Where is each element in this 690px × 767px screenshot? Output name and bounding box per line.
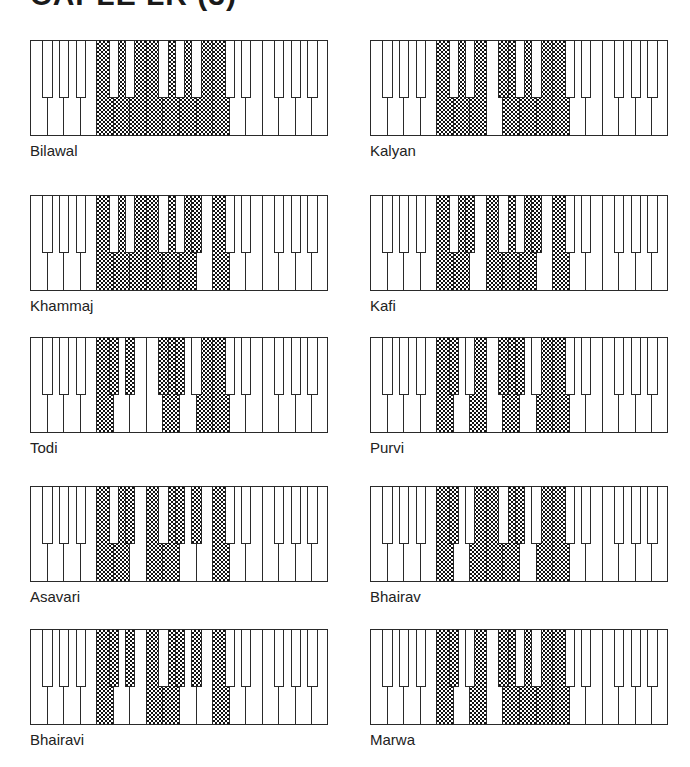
black-key-d-sharp (125, 487, 135, 544)
black-key-g-sharp (515, 338, 525, 395)
black-key-f-sharp (382, 41, 392, 98)
black-key-g-sharp (59, 487, 69, 544)
black-key-a-sharp (531, 196, 541, 253)
black-key-c-sharp (109, 41, 119, 98)
black-key-d-sharp (581, 487, 591, 544)
thaat-label: Purvi (370, 439, 670, 456)
black-key-d-sharp (125, 338, 135, 395)
black-key-d-sharp (465, 41, 475, 98)
black-key-f-sharp (498, 487, 508, 544)
black-key-c-sharp (565, 196, 575, 253)
black-key-f-sharp (382, 196, 392, 253)
black-key-c-sharp (565, 41, 575, 98)
black-key-f-sharp (382, 338, 392, 395)
black-key-f-sharp (42, 630, 52, 687)
black-key-d-sharp (241, 487, 251, 544)
black-key-a-sharp (191, 630, 201, 687)
thaat-label: Marwa (370, 731, 670, 748)
piano-keyboard (370, 40, 668, 136)
thaat-panel-purvi: Purvi (370, 337, 670, 456)
black-key-g-sharp (291, 41, 301, 98)
black-key-f-sharp (274, 630, 284, 687)
black-key-f-sharp (498, 630, 508, 687)
page-title: CAPLE LR (3) (30, 0, 237, 12)
thaat-label: Kafi (370, 297, 670, 314)
black-key-g-sharp (175, 338, 185, 395)
black-key-d-sharp (465, 338, 475, 395)
black-key-a-sharp (416, 630, 426, 687)
black-key-g-sharp (175, 487, 185, 544)
black-key-c-sharp (109, 338, 119, 395)
black-key-g-sharp (631, 487, 641, 544)
black-key-a-sharp (76, 630, 86, 687)
black-key-a-sharp (531, 487, 541, 544)
black-key-f-sharp (614, 487, 624, 544)
black-key-g-sharp (175, 196, 185, 253)
black-key-d-sharp (125, 41, 135, 98)
black-key-g-sharp (631, 41, 641, 98)
black-key-d-sharp (241, 630, 251, 687)
black-key-g-sharp (631, 196, 641, 253)
black-key-g-sharp (59, 630, 69, 687)
black-key-a-sharp (76, 487, 86, 544)
black-key-c-sharp (565, 630, 575, 687)
black-key-c-sharp (449, 196, 459, 253)
thaat-panel-bilawal: Bilawal (30, 40, 330, 159)
black-key-f-sharp (614, 338, 624, 395)
black-key-d-sharp (241, 41, 251, 98)
piano-keyboard (370, 486, 668, 582)
black-key-g-sharp (175, 630, 185, 687)
black-key-a-sharp (416, 196, 426, 253)
black-key-d-sharp (241, 196, 251, 253)
thaat-label: Bhairav (370, 588, 670, 605)
thaat-panel-bhairavi: Bhairavi (30, 629, 330, 748)
black-key-c-sharp (565, 338, 575, 395)
black-key-c-sharp (449, 338, 459, 395)
black-key-a-sharp (307, 338, 317, 395)
black-key-g-sharp (515, 196, 525, 253)
black-key-f-sharp (382, 630, 392, 687)
thaat-panel-kalyan: Kalyan (370, 40, 670, 159)
black-key-f-sharp (382, 487, 392, 544)
black-key-g-sharp (515, 630, 525, 687)
black-key-c-sharp (225, 487, 235, 544)
black-key-a-sharp (416, 487, 426, 544)
black-key-d-sharp (465, 487, 475, 544)
black-key-g-sharp (631, 630, 641, 687)
black-key-c-sharp (565, 487, 575, 544)
black-key-a-sharp (647, 41, 657, 98)
black-key-g-sharp (291, 196, 301, 253)
black-key-f-sharp (614, 41, 624, 98)
piano-keyboard (30, 486, 328, 582)
black-key-a-sharp (647, 630, 657, 687)
black-key-a-sharp (76, 196, 86, 253)
black-key-a-sharp (76, 338, 86, 395)
black-key-f-sharp (42, 41, 52, 98)
black-key-g-sharp (59, 338, 69, 395)
black-key-f-sharp (42, 338, 52, 395)
thaat-label: Todi (30, 439, 330, 456)
black-key-c-sharp (225, 630, 235, 687)
black-key-a-sharp (416, 338, 426, 395)
black-key-a-sharp (531, 338, 541, 395)
black-key-g-sharp (399, 338, 409, 395)
black-key-f-sharp (42, 487, 52, 544)
piano-keyboard (370, 629, 668, 725)
black-key-c-sharp (109, 196, 119, 253)
black-key-a-sharp (647, 338, 657, 395)
black-key-c-sharp (225, 41, 235, 98)
black-key-d-sharp (581, 196, 591, 253)
piano-keyboard (30, 195, 328, 291)
black-key-d-sharp (125, 196, 135, 253)
black-key-a-sharp (191, 487, 201, 544)
black-key-g-sharp (291, 338, 301, 395)
black-key-f-sharp (614, 630, 624, 687)
black-key-a-sharp (647, 487, 657, 544)
piano-keyboard (30, 337, 328, 433)
thaat-panel-kafi: Kafi (370, 195, 670, 314)
black-key-c-sharp (449, 41, 459, 98)
black-key-a-sharp (531, 41, 541, 98)
black-key-a-sharp (307, 630, 317, 687)
black-key-a-sharp (191, 196, 201, 253)
black-key-g-sharp (175, 41, 185, 98)
